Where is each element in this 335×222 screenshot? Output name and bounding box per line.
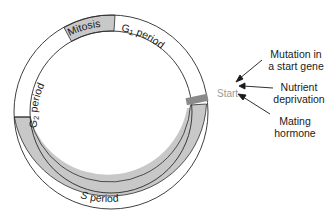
signal-mating: Mating hormone: [265, 115, 325, 139]
signal-nutrient-line2: deprivation: [266, 93, 332, 105]
signal-nutrient: Nutrient deprivation: [266, 81, 332, 105]
signal-mutation-line1: Mutation in: [258, 48, 334, 60]
start-label: Start: [217, 88, 238, 99]
signal-mutation-line2: a start gene: [258, 60, 334, 72]
signal-mutation: Mutation in a start gene: [258, 48, 334, 72]
signal-nutrient-line1: Nutrient: [266, 81, 332, 93]
signal-mating-line1: Mating: [265, 115, 325, 127]
signal-mating-line2: hormone: [265, 127, 325, 139]
cell-cycle-diagram: Mitosis G1 period G2 period S period: [0, 0, 335, 222]
